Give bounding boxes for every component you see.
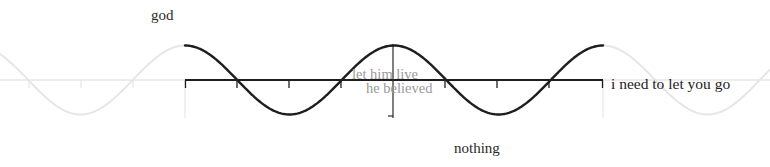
label-nothing: nothing (454, 141, 500, 156)
label-i-need-to-let-you-go: i need to let you go (611, 76, 730, 92)
label-he-believed: he believed (366, 81, 432, 96)
label-god: god (151, 8, 174, 23)
